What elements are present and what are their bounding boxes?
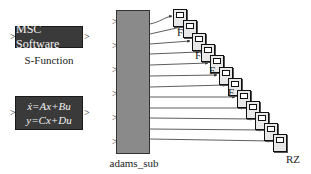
scope-screen-icon xyxy=(249,104,257,110)
scope-screen-icon xyxy=(222,70,230,76)
scope-label-f1: F xyxy=(177,26,183,38)
scope-screen-icon xyxy=(176,12,184,18)
scope-screen-icon xyxy=(258,115,266,121)
scope-12[interactable] xyxy=(273,134,287,152)
scope-screen-icon xyxy=(267,126,275,132)
scope-screen-icon xyxy=(240,93,248,99)
scope-label-f3: F xyxy=(209,64,215,76)
scope-label-f2: F xyxy=(195,49,201,61)
scope-label-f4: F xyxy=(228,86,234,98)
scope-screen-icon xyxy=(195,36,203,42)
scope-label-rz: RZ xyxy=(286,153,300,165)
scope-screen-icon xyxy=(204,47,212,53)
scope-screen-icon xyxy=(276,137,284,143)
scope-screen-icon xyxy=(186,23,194,29)
signal-wires xyxy=(0,0,311,174)
